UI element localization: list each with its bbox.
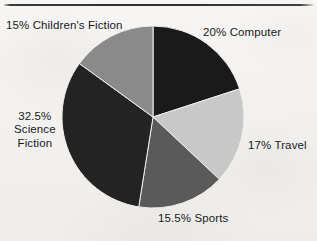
pie-label-science-fiction: 32.5% Science Fiction: [14, 110, 56, 150]
pie-label-childrens-fiction: 15% Children's Fiction: [6, 19, 123, 32]
pie-chart-figure: 15% Children's Fiction 20% Computer 17% …: [0, 0, 317, 241]
pie-slice-group: [62, 26, 244, 208]
pie-label-travel: 17% Travel: [248, 139, 307, 152]
pie-label-computer: 20% Computer: [203, 26, 281, 39]
pie-label-sports: 15.5% Sports: [158, 212, 228, 225]
chart-area: 15% Children's Fiction 20% Computer 17% …: [0, 0, 317, 241]
